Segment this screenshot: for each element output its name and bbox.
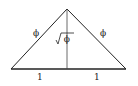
right-side-line [67, 9, 126, 69]
altitude-label: √ϕ [58, 35, 70, 44]
base-left-label: 1 [37, 73, 43, 82]
left-side-label: ϕ [33, 29, 39, 38]
base-right-label: 1 [94, 73, 100, 82]
right-side-label: ϕ [100, 29, 106, 38]
